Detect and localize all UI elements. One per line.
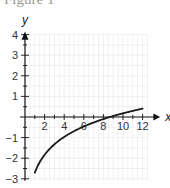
y-tick-label: 1 bbox=[12, 90, 18, 102]
y-tick-label: −1 bbox=[5, 132, 18, 144]
y-axis-arrow-icon bbox=[22, 32, 29, 40]
y-tick-label: 4 bbox=[12, 29, 18, 41]
x-tick-label: 8 bbox=[100, 120, 106, 132]
x-tick-label: 4 bbox=[61, 120, 67, 132]
x-axis-arrow-icon bbox=[153, 114, 160, 121]
x-tick-label: 2 bbox=[42, 120, 48, 132]
y-tick-label: 3 bbox=[12, 49, 18, 61]
y-tick-label: −2 bbox=[5, 152, 18, 164]
grid bbox=[25, 35, 148, 181]
x-tick-label: 12 bbox=[136, 120, 148, 132]
x-tick-label: 10 bbox=[117, 120, 129, 132]
y-tick-label: 2 bbox=[12, 70, 18, 82]
x-axis-label: x bbox=[164, 110, 170, 124]
y-tick-label: −3 bbox=[5, 173, 18, 185]
y-axis-label: y bbox=[21, 13, 29, 27]
line-chart: 246810124321−1−2−3xy bbox=[0, 0, 170, 188]
